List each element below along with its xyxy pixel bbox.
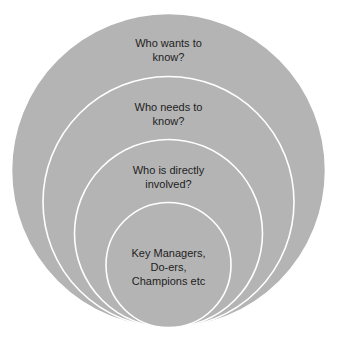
label-line: Key Managers, <box>0 246 337 260</box>
label-key-managers: Key Managers, Do-ers, Champions etc <box>0 246 337 288</box>
label-line: Who is directly <box>0 163 337 177</box>
label-line: Who needs to <box>0 100 337 114</box>
label-line: Do-ers, <box>0 260 337 274</box>
label-line: Champions etc <box>0 274 337 288</box>
label-who-is-directly-involved: Who is directly involved? <box>0 163 337 191</box>
label-line: know? <box>0 50 337 64</box>
label-line: know? <box>0 114 337 128</box>
label-line: Who wants to <box>0 36 337 50</box>
label-who-needs-to-know: Who needs to know? <box>0 100 337 128</box>
label-who-wants-to-know: Who wants to know? <box>0 36 337 64</box>
label-line: involved? <box>0 177 337 191</box>
